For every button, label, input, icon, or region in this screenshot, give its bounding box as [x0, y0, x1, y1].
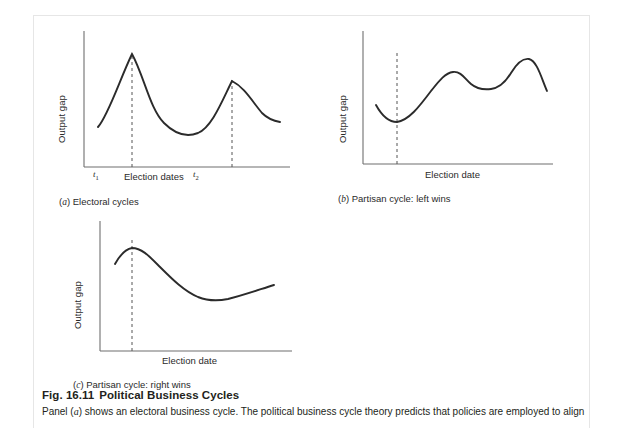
- panel-b-y-axis-label: Output gap: [337, 95, 348, 143]
- panel-b-caption: (b) Partisan cycle: left wins: [338, 193, 450, 204]
- panel-c-plot: [62, 211, 312, 366]
- panel-c-curve: [115, 248, 274, 300]
- figure-number: Fig. 16.11: [42, 389, 94, 401]
- panel-a-tick-label-t2: t2: [193, 169, 199, 181]
- panel-a-curve: [98, 54, 280, 135]
- figure-container: Output gap t1 t2 Election dates (a) Elec…: [33, 15, 590, 428]
- panel-a-plot: [46, 21, 296, 181]
- figure-caption-block: Fig. 16.11Political Business Cycles Pane…: [42, 389, 612, 418]
- panel-b-partisan-left-wins: Output gap Election date (b) Partisan cy…: [327, 21, 577, 206]
- panel-a-x-axis-label: Election dates: [124, 171, 184, 182]
- panel-c-y-axis-label: Output gap: [72, 281, 83, 329]
- panel-a-caption: (a) Electoral cycles: [59, 196, 139, 207]
- panel-b-x-axis-label: Election date: [425, 169, 480, 180]
- figure-title: Political Business Cycles: [99, 389, 239, 401]
- figure-description-prefix: Panel (: [42, 406, 74, 417]
- panel-b-curve: [376, 59, 547, 122]
- panel-a-tick-label-t1: t1: [93, 169, 99, 181]
- panel-a-electoral-cycles: Output gap t1 t2 Election dates (a) Elec…: [46, 21, 296, 206]
- figure-description: Panel (a) shows an electoral business cy…: [42, 405, 612, 418]
- panel-a-caption-text: Electoral cycles: [73, 196, 139, 207]
- panel-c-x-axis-label: Election date: [162, 355, 217, 366]
- figure-description-suffix: ) shows an electoral business cycle. The…: [79, 406, 585, 417]
- panel-a-y-axis-label: Output gap: [56, 95, 67, 143]
- panel-b-plot: [327, 21, 577, 181]
- figure-title-line: Fig. 16.11Political Business Cycles: [42, 389, 612, 401]
- panel-b-caption-text: Partisan cycle: left wins: [352, 193, 451, 204]
- panel-c-partisan-right-wins: Output gap Election date (c) Partisan cy…: [62, 211, 312, 396]
